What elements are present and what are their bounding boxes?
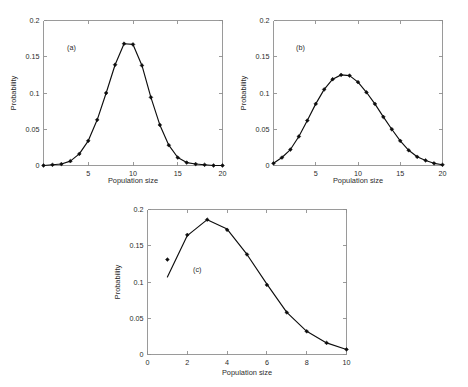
data-point xyxy=(166,258,170,262)
data-point xyxy=(42,164,46,168)
series-markers-b xyxy=(272,73,445,167)
x-tick-label-a: 20 xyxy=(219,169,227,178)
chart-panel-b: 510152000.050.10.150.2 Population size P… xyxy=(230,0,468,192)
x-tick-label-c: 2 xyxy=(185,358,189,367)
panel-tag-c: (c) xyxy=(193,265,201,274)
chart-svg-b: 510152000.050.10.150.2 Population size P… xyxy=(230,0,468,192)
data-point xyxy=(424,159,428,163)
data-point xyxy=(51,163,55,167)
panel-tag-b: (b) xyxy=(296,43,305,52)
data-point xyxy=(203,163,207,167)
y-tick-label-b: 0.2 xyxy=(260,16,270,25)
x-tick-label-c: 4 xyxy=(225,358,229,367)
x-tick-label-a: 5 xyxy=(86,169,90,178)
tick-marks-c xyxy=(148,210,347,355)
data-point xyxy=(95,118,99,122)
y-tick-label-b: 0.15 xyxy=(256,52,270,61)
chart-panel-a: 510152000.050.10.150.2 Population size P… xyxy=(0,0,238,192)
tick-labels-b: 510152000.050.10.150.2 xyxy=(256,16,447,177)
y-axis-title-b: Probability xyxy=(239,75,248,110)
series-line-c xyxy=(167,220,346,350)
y-tick-label-c: 0.1 xyxy=(134,278,144,287)
data-point xyxy=(185,233,189,237)
x-tick-label-b: 5 xyxy=(314,169,318,178)
y-tick-label-c: 0.2 xyxy=(134,205,144,214)
x-tick-label-a: 15 xyxy=(174,169,182,178)
y-tick-label-c: 0.05 xyxy=(130,314,144,323)
tick-labels-a: 510152000.050.10.150.2 xyxy=(26,16,227,177)
data-point xyxy=(131,43,135,47)
x-tick-label-c: 10 xyxy=(343,358,351,367)
y-axis-title-a: Probability xyxy=(9,75,18,110)
y-tick-label-a: 0.1 xyxy=(30,89,40,98)
y-tick-label-b: 0.1 xyxy=(260,89,270,98)
series-markers-c xyxy=(166,218,349,352)
chart-panel-c: 024681000.050.10.150.2 Population size P… xyxy=(105,192,365,387)
data-point xyxy=(140,64,144,68)
data-point xyxy=(432,161,436,165)
data-point xyxy=(122,42,126,46)
chart-svg-a: 510152000.050.10.150.2 Population size P… xyxy=(0,0,238,192)
data-point xyxy=(104,91,108,95)
x-tick-label-b: 20 xyxy=(439,169,447,178)
series-line-b xyxy=(274,75,443,165)
y-tick-label-b: 0.05 xyxy=(256,125,270,134)
y-tick-label-a: 0.05 xyxy=(26,125,40,134)
data-point xyxy=(149,95,153,99)
data-point xyxy=(441,163,445,167)
data-point xyxy=(212,164,216,168)
y-tick-label-c: 0.15 xyxy=(130,241,144,250)
y-tick-label-a: 0.15 xyxy=(26,52,40,61)
x-tick-label-b: 15 xyxy=(396,169,404,178)
series-markers-a xyxy=(42,42,225,168)
data-point xyxy=(221,164,225,168)
data-point xyxy=(113,63,117,67)
figure-panel-group: 510152000.050.10.150.2 Population size P… xyxy=(0,0,468,387)
y-tick-label-a: 0 xyxy=(36,161,40,170)
x-axis-title-c: Population size xyxy=(222,368,272,377)
data-point xyxy=(158,123,162,127)
y-tick-label-c: 0 xyxy=(140,350,144,359)
x-tick-label-c: 8 xyxy=(305,358,309,367)
y-tick-label-a: 0.2 xyxy=(30,16,40,25)
axes-frame-c xyxy=(148,210,347,355)
data-point xyxy=(345,348,349,352)
panel-tag-a: (a) xyxy=(67,43,76,52)
x-tick-label-c: 6 xyxy=(265,358,269,367)
y-tick-label-b: 0 xyxy=(266,161,270,170)
series-line-a xyxy=(44,44,223,166)
chart-svg-c: 024681000.050.10.150.2 Population size P… xyxy=(105,192,365,387)
x-axis-title-a: Population size xyxy=(108,176,158,185)
tick-labels-c: 024681000.050.10.150.2 xyxy=(130,205,351,366)
x-axis-title-b: Population size xyxy=(333,176,383,185)
x-tick-label-c: 0 xyxy=(146,358,150,367)
y-axis-title-c: Probability xyxy=(113,264,122,299)
